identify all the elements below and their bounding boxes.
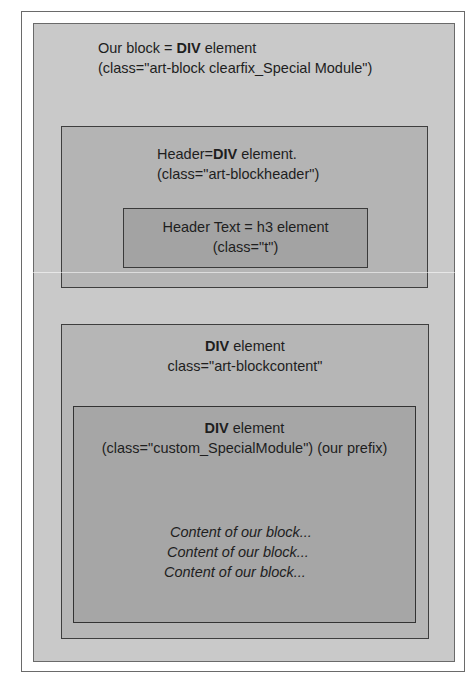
header-div-title: Header=DIV element. bbox=[157, 144, 319, 164]
header-div-label: Header=DIV element. (class="art-blockhea… bbox=[157, 144, 319, 184]
div-keyword: DIV bbox=[213, 146, 237, 162]
scan-seam-line bbox=[33, 272, 455, 273]
custom-div-class: (class="custom_SpecialModule") (our pref… bbox=[73, 438, 416, 458]
content-line: Content of our block... bbox=[170, 522, 312, 542]
content-line: Content of our block... bbox=[164, 562, 306, 582]
div-keyword: DIV bbox=[205, 420, 229, 436]
outer-block-title: Our block = DIV element bbox=[98, 38, 372, 58]
div-keyword: DIV bbox=[177, 40, 201, 56]
outer-block-label: Our block = DIV element (class="art-bloc… bbox=[98, 38, 372, 78]
header-div-class: (class="art-blockheader") bbox=[157, 164, 319, 184]
header-text-title: Header Text = h3 element bbox=[123, 217, 368, 237]
content-div-label: DIV element class="art-blockcontent" bbox=[61, 336, 429, 376]
custom-div-label: DIV element (class="custom_SpecialModule… bbox=[73, 418, 416, 458]
custom-div-title: DIV element bbox=[73, 418, 416, 438]
header-text-class: (class="t") bbox=[123, 237, 368, 257]
content-line: Content of our block... bbox=[167, 542, 309, 562]
content-div-class: class="art-blockcontent" bbox=[61, 356, 429, 376]
content-div-title: DIV element bbox=[61, 336, 429, 356]
div-keyword: DIV bbox=[205, 338, 229, 354]
outer-block-class: (class="art-block clearfix_Special Modul… bbox=[98, 58, 372, 78]
header-text-label: Header Text = h3 element (class="t") bbox=[123, 217, 368, 257]
